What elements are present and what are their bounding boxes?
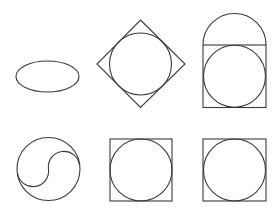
semicircle-cap xyxy=(203,14,266,46)
inscribed-circle xyxy=(204,45,266,107)
ellipse-shape xyxy=(16,61,79,92)
inscribed-circle xyxy=(204,139,266,201)
diagram-canvas xyxy=(0,0,275,210)
figure-circle-in-square-2 xyxy=(203,139,266,201)
figure-circle-in-square-1 xyxy=(110,139,172,201)
figure-ellipse xyxy=(16,61,79,92)
figure-yin-yang-circle xyxy=(17,138,80,201)
figure-circle-in-square-with-cap xyxy=(203,14,266,108)
figure-circle-in-diamond xyxy=(97,20,185,108)
inscribed-circle xyxy=(110,139,172,201)
inscribed-circle xyxy=(110,33,172,95)
s-curve-divider xyxy=(18,151,80,186)
